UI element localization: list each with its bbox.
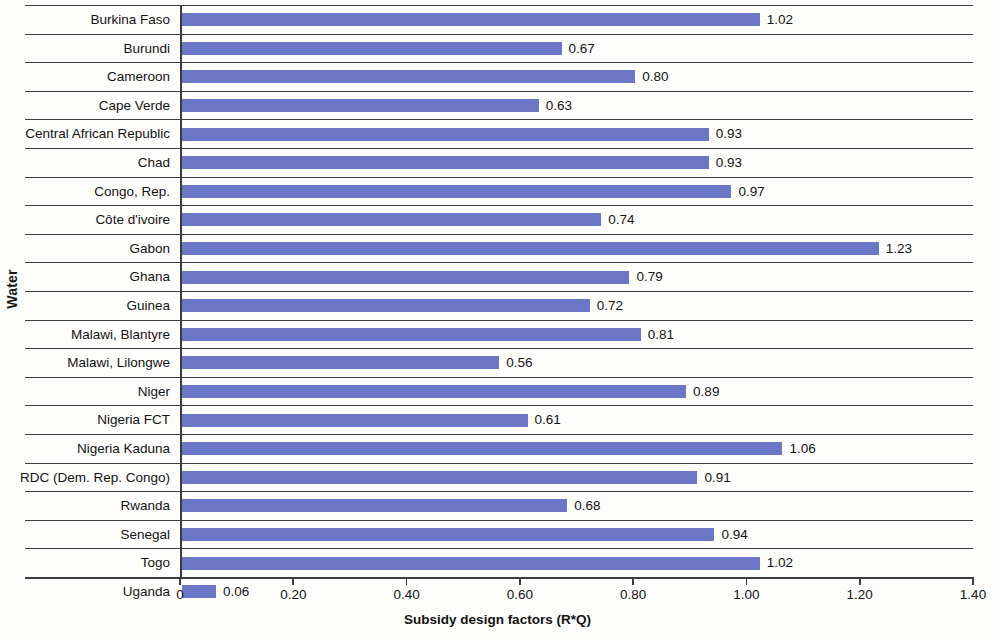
x-tick-label: 1.40: [960, 587, 986, 602]
bar: [182, 213, 601, 226]
category-label: Côte d'ivoire: [25, 206, 175, 234]
category-label: Chad: [25, 149, 175, 177]
bar-value-label: 0.94: [721, 528, 747, 542]
bar-value-label: 0.97: [738, 185, 764, 199]
chart-row: Malawi, Lilongwe0.56: [25, 348, 973, 377]
x-tick-label: 0.80: [620, 587, 646, 602]
chart-row: Malawi, Blantyre0.81: [25, 320, 973, 349]
bar-group: 0.80: [182, 63, 973, 91]
bar-value-label: 1.23: [886, 242, 912, 256]
x-tick-label: 1.00: [733, 587, 759, 602]
x-tick-mark: [746, 577, 748, 585]
bar-value-label: 0.93: [716, 127, 742, 141]
x-tick-mark: [292, 577, 294, 585]
bar-group: 0.91: [182, 464, 973, 492]
chart-row: Rwanda0.68: [25, 491, 973, 520]
category-label: RDC (Dem. Rep. Congo): [25, 464, 175, 492]
bar-group: 0.61: [182, 406, 973, 434]
bar: [182, 70, 635, 83]
bar-value-label: 0.67: [569, 42, 595, 56]
category-label: Burundi: [25, 35, 175, 63]
bar: [182, 185, 731, 198]
x-tick-label: 1.20: [847, 587, 873, 602]
bar-value-label: 0.61: [535, 413, 561, 427]
bar: [182, 242, 879, 255]
bar-group: 0.93: [182, 149, 973, 177]
bar-value-label: 0.93: [716, 156, 742, 170]
bar-value-label: 0.81: [648, 328, 674, 342]
bar-chart: Water Burkina Faso1.02Burundi0.67Cameroo…: [0, 0, 995, 638]
chart-row: Ghana0.79: [25, 262, 973, 291]
bar-group: 0.79: [182, 263, 973, 291]
category-label: Rwanda: [25, 492, 175, 520]
bar-group: 0.67: [182, 35, 973, 63]
bar-value-label: 0.80: [642, 70, 668, 84]
bar-value-label: 0.63: [546, 99, 572, 113]
chart-row: Cameroon0.80: [25, 62, 973, 91]
category-label: Ghana: [25, 263, 175, 291]
bar-group: 1.02: [182, 549, 973, 577]
chart-row: Senegal0.94: [25, 520, 973, 549]
bar-group: 0.81: [182, 321, 973, 349]
x-tick-mark: [632, 577, 634, 585]
bar: [182, 414, 528, 427]
bar-group: 0.72: [182, 292, 973, 320]
bar: [182, 499, 567, 512]
bar-group: 1.23: [182, 235, 973, 263]
category-label: Burkina Faso: [25, 6, 175, 34]
bar-value-label: 0.79: [636, 270, 662, 284]
category-label: Malawi, Blantyre: [25, 321, 175, 349]
plot-area: Burkina Faso1.02Burundi0.67Cameroon0.80C…: [25, 5, 973, 577]
x-tick-label: 0.60: [507, 587, 533, 602]
category-label: Gabon: [25, 235, 175, 263]
x-axis-title: Subsidy design factors (R*Q): [0, 612, 995, 627]
bar-value-label: 1.06: [789, 442, 815, 456]
bar-group: 0.97: [182, 178, 973, 206]
chart-row: Burundi0.67: [25, 34, 973, 63]
category-label: Malawi, Lilongwe: [25, 349, 175, 377]
bar-group: 0.63: [182, 92, 973, 120]
chart-row: Gabon1.23: [25, 234, 973, 263]
bar-value-label: 1.02: [767, 556, 793, 570]
chart-row: Cape Verde0.63: [25, 91, 973, 120]
bar: [182, 13, 760, 26]
chart-row: Central African Republic0.93: [25, 119, 973, 148]
bar: [182, 156, 709, 169]
bar: [182, 42, 562, 55]
category-label: Nigeria Kaduna: [25, 435, 175, 463]
bar-group: 1.06: [182, 435, 973, 463]
category-label: Niger: [25, 378, 175, 406]
chart-row: Congo, Rep.0.97: [25, 177, 973, 206]
y-axis-title-label: Water: [4, 269, 20, 308]
bar: [182, 528, 714, 541]
bar: [182, 442, 782, 455]
bar-value-label: 0.56: [506, 356, 532, 370]
bar: [182, 557, 760, 570]
category-label: Guinea: [25, 292, 175, 320]
bar: [182, 356, 499, 369]
bar-group: 0.56: [182, 349, 973, 377]
bar: [182, 385, 686, 398]
x-tick-mark: [179, 577, 181, 585]
y-axis-title: Water: [0, 0, 24, 578]
bar: [182, 328, 641, 341]
chart-row: Burkina Faso1.02: [25, 5, 973, 34]
category-label: Central African Republic: [25, 120, 175, 148]
bar-group: 0.94: [182, 521, 973, 549]
bar: [182, 271, 629, 284]
x-tick-label: 0.40: [393, 587, 419, 602]
bar: [182, 299, 590, 312]
bar-value-label: 0.74: [608, 213, 634, 227]
chart-row: Togo1.02: [25, 548, 973, 577]
bar-group: 0.93: [182, 120, 973, 148]
chart-row: Niger0.89: [25, 377, 973, 406]
bar-group: 0.68: [182, 492, 973, 520]
x-axis-ticks: 00.200.400.600.801.001.201.40: [0, 577, 995, 601]
category-label: Nigeria FCT: [25, 406, 175, 434]
bar-value-label: 1.02: [767, 13, 793, 27]
chart-row: Côte d'ivoire0.74: [25, 205, 973, 234]
chart-row: Chad0.93: [25, 148, 973, 177]
x-tick-mark: [859, 577, 861, 585]
category-label: Togo: [25, 549, 175, 577]
x-tick-label: 0: [176, 587, 184, 602]
